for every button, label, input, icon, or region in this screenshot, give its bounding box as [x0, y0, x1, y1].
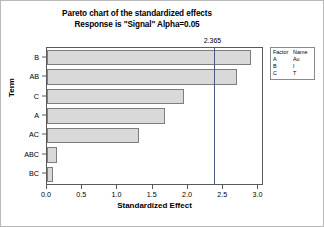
legend-cell-name: Au [293, 56, 312, 63]
y-tick-label-b: B [34, 52, 39, 61]
bar-ab [47, 69, 237, 85]
bar-bc [47, 167, 53, 183]
bar-ac [47, 128, 139, 144]
y-tick-label-ab: AB [29, 72, 39, 81]
x-tick-mark [116, 185, 117, 189]
legend-cell-name: I [293, 63, 312, 70]
bar-b [47, 50, 251, 66]
chart-title: Pareto chart of the standardized effects [1, 8, 273, 19]
x-tick-label: 2.5 [217, 190, 227, 199]
x-axis-title: Standardized Effect [46, 201, 263, 210]
chart-subtitle: Response is "Signal" Alpha=0.05 [1, 19, 273, 30]
reference-line [214, 48, 215, 184]
x-tick-label: 3.0 [252, 190, 262, 199]
y-tick-label-ac: AC [29, 130, 39, 139]
bar-c [47, 89, 184, 105]
x-tick-mark [152, 185, 153, 189]
factor-legend: Factor Name AAuBICT [270, 47, 315, 80]
chart-title-block: Pareto chart of the standardized effects… [1, 8, 273, 30]
legend-cell-factor: B [273, 63, 293, 70]
x-tick-label: 1.0 [111, 190, 121, 199]
y-tick-label-c: C [34, 91, 39, 100]
bar-a [47, 108, 165, 124]
pareto-chart-figure: Pareto chart of the standardized effects… [0, 0, 324, 227]
reference-line-label: 2.365 [204, 37, 222, 44]
legend-table: Factor Name AAuBICT [273, 49, 312, 77]
y-tick-label-a: A [34, 111, 39, 120]
legend-header-factor: Factor [273, 49, 293, 56]
x-tick-label: 1.5 [147, 190, 157, 199]
y-tick-label-bc: BC [29, 169, 39, 178]
y-axis-title: Term [7, 78, 16, 97]
legend-row: CT [273, 70, 312, 77]
legend-body: AAuBICT [273, 56, 312, 77]
x-tick-label: 2.0 [182, 190, 192, 199]
x-tick-mark [46, 185, 47, 189]
x-tick-mark [257, 185, 258, 189]
legend-row: BI [273, 63, 312, 70]
x-tick-mark [187, 185, 188, 189]
legend-row: AAu [273, 56, 312, 63]
legend-cell-name: T [293, 70, 312, 77]
x-tick-mark [222, 185, 223, 189]
legend-header-name: Name [293, 49, 312, 56]
bar-abc [47, 147, 57, 163]
y-tick-label-abc: ABC [24, 149, 39, 158]
legend-header-row: Factor Name [273, 49, 312, 56]
x-tick-label: 0.5 [76, 190, 86, 199]
plot-area [46, 47, 263, 185]
y-axis: BABCAACABCBC [1, 47, 46, 185]
legend-cell-factor: A [273, 56, 293, 63]
x-tick-label: 0.0 [41, 190, 51, 199]
x-tick-mark [81, 185, 82, 189]
legend-cell-factor: C [273, 70, 293, 77]
